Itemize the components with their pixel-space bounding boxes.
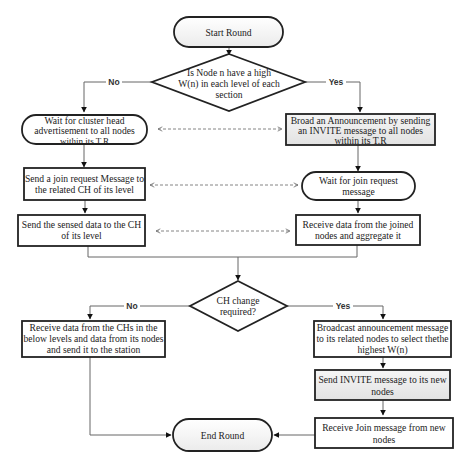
svg-text:nodes: nodes [373,434,396,445]
svg-text:section: section [215,89,242,100]
node-receive-join-new: Receive Join message from new nodes [315,418,453,448]
svg-text:required?: required? [220,306,256,317]
svg-text:Receive Join message from new: Receive Join message from new [322,422,446,433]
node-broadcast-invite: Broad an Announcement by sending an INVI… [286,114,435,146]
svg-text:Wait for join request: Wait for join request [319,175,398,186]
svg-text:within its T.R: within its T.R [60,136,109,146]
label-d2-no: No [126,301,137,311]
node-wait-join-request: Wait for join request message [302,172,415,200]
node-end-round: End Round [173,419,272,451]
node-send-sensed-data: Send the sensed data to the CH of its le… [18,215,145,246]
svg-text:Send the sensed data to the CH: Send the sensed data to the CH [22,219,141,230]
svg-text:Broadcast announcement message: Broadcast announcement message [317,322,449,333]
node-start-round: Start Round [174,17,283,47]
node-wait-cluster-head: Wait for cluster head advertisement to a… [22,115,147,146]
svg-text:advertisement to all nodes: advertisement to all nodes [34,125,135,136]
svg-text:nodes: nodes [371,386,394,397]
node-send-invite-new: Send INVITE message to its new nodes [315,370,450,400]
svg-text:and send it to the station: and send it to the station [47,344,141,355]
svg-text:the related CH of its level: the related CH of its level [35,184,134,195]
edge-receive-chs-to-end [90,357,171,435]
node-decision-ch-change: CH change required? [190,281,287,331]
label-d2-yes: Yes [336,301,351,311]
node-receive-from-chs: Receive data from the CHs in the below l… [22,321,165,357]
svg-text:Receive data from the CHs in t: Receive data from the CHs in the [30,322,158,333]
svg-text:message: message [342,186,375,197]
svg-text:within its T.R: within its T.R [334,135,387,146]
svg-text:of its level: of its level [61,230,102,241]
svg-text:nodes and aggregate it: nodes and aggregate it [315,230,401,241]
node-receive-aggregate: Receive data from the joined nodes and a… [296,215,420,245]
node-decision-high-wn: Is Node n have a high W(n) in each level… [152,54,305,111]
label-d1-yes: Yes [329,77,344,87]
label-d1-no: No [108,77,119,87]
svg-text:Receive data from the joined: Receive data from the joined [303,219,414,230]
svg-text:Start Round: Start Round [205,27,251,38]
svg-text:highest W(n): highest W(n) [357,344,407,356]
svg-text:Is Node n have a high: Is Node n have a high [187,67,271,78]
node-broadcast-announcement: Broadcast announcement message to its re… [314,321,451,357]
svg-text:End Round: End Round [201,430,245,441]
svg-text:CH change: CH change [217,295,260,306]
svg-text:to its related nodes to select: to its related nodes to select thethe [316,333,448,344]
svg-text:Send a join request Message to: Send a join request Message to [25,173,144,184]
flowchart-canvas: No Yes No Yes Start Round Is Node n have… [0,0,472,470]
svg-text:Send INVITE message to its new: Send INVITE message to its new [318,374,446,385]
svg-text:below levels and data from its: below levels and data from its nodes [23,333,163,344]
node-send-join-request: Send a join request Message to the relat… [24,168,145,200]
